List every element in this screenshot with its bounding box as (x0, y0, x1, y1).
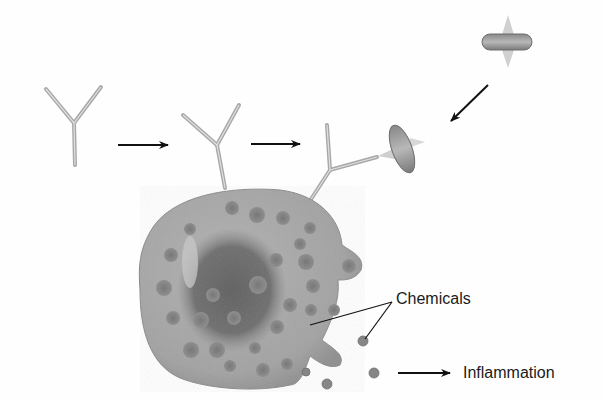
allergen-arrow (451, 85, 488, 121)
chemicals-label: Chemicals (396, 290, 471, 308)
inflammation-label: Inflammation (463, 364, 555, 382)
attaching-antibody-icon (183, 105, 239, 188)
mast-cell-icon (139, 186, 365, 392)
diagram-canvas: Chemicals Inflammation (0, 0, 603, 400)
bound-allergen-icon (378, 122, 425, 176)
diagram-graphics (0, 0, 603, 400)
free-allergen-icon (482, 15, 532, 68)
